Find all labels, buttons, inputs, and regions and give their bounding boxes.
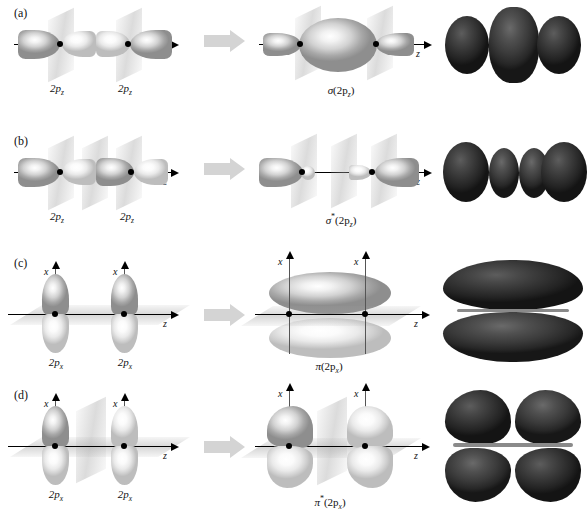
lobe-c-right-up xyxy=(111,274,138,315)
mo-label-b: σ*(2pz) xyxy=(301,212,381,229)
mo-nodal-plane-c xyxy=(241,306,421,326)
nucleus-a-right xyxy=(125,41,131,47)
mo-nucleus-b-right xyxy=(369,169,375,175)
molecular-orbital-b: z σ*(2pz) xyxy=(255,128,445,257)
photo-lobe-b-4 xyxy=(541,142,587,202)
atomic-orbitals-b: z 2pz 2pz xyxy=(0,128,198,257)
figure-row-a: (a) z 2pz 2pz z σ(2pz) xyxy=(0,0,587,129)
transform-arrow-b xyxy=(204,158,248,180)
z-axis-label-d: z xyxy=(163,450,167,461)
orbital-photo-d xyxy=(443,382,587,516)
lobe-b-left-inner xyxy=(62,159,96,185)
photo-lobe-a-3 xyxy=(537,16,581,74)
nucleus-d-right xyxy=(121,443,127,449)
mo-nucleus-d-left xyxy=(286,443,292,449)
nucleus-b-left xyxy=(57,169,63,175)
x-axis-mo-c-right xyxy=(365,258,366,314)
mo-nucleus-a-right xyxy=(373,41,379,47)
z-axis-mo-c xyxy=(255,314,423,315)
photo-lobe-a-1 xyxy=(445,16,489,74)
z-axis-label-mo-c: z xyxy=(414,318,418,329)
atomic-orbitals-d: z x x 2px 2px xyxy=(0,382,198,516)
x-axis-label-c-right: x xyxy=(113,266,117,277)
x-axis-label-mo-d-left: x xyxy=(278,388,282,399)
orbital-photo-a xyxy=(443,0,587,129)
figure-row-b: (b) z 2pz 2pz z σ*(2pz) xyxy=(0,128,587,257)
mo-lobe-d-bottom-right xyxy=(347,446,393,488)
orbital-label-b-right: 2pz xyxy=(104,210,150,225)
transform-arrow-a xyxy=(204,30,248,52)
orbital-photo-b xyxy=(443,128,587,257)
molecular-orbital-d: z x x π*(2px) xyxy=(255,382,445,516)
photo-lobe-b-1 xyxy=(443,142,489,202)
mo-nucleus-b-left xyxy=(299,169,305,175)
mo-label-c: π(2px) xyxy=(293,360,365,375)
mo-lobe-d-top-left xyxy=(267,406,313,448)
nucleus-c-right xyxy=(121,311,127,317)
orbital-photo-c xyxy=(443,250,587,382)
lobe-d-left-up xyxy=(42,406,69,447)
x-axis-label-c-left: x xyxy=(44,266,48,277)
x-axis-mo-c-left xyxy=(289,258,290,314)
orbital-label-d-left: 2px xyxy=(32,488,80,503)
x-axis-mo-c-right-lower xyxy=(365,314,366,354)
lobe-d-left-down xyxy=(42,446,69,485)
mo-lobe-d-bottom-left xyxy=(267,446,313,488)
photo-lobe-d-3 xyxy=(445,448,511,502)
x-axis-mo-c-left-lower xyxy=(289,314,290,354)
mo-nucleus-c-left xyxy=(286,311,292,317)
transform-arrow-d xyxy=(204,436,248,458)
orbital-label-c-left: 2px xyxy=(32,356,80,371)
nucleus-d-left xyxy=(52,443,58,449)
transform-arrow-c xyxy=(204,304,248,326)
nucleus-c-left xyxy=(52,311,58,317)
photo-lobe-d-4 xyxy=(515,448,581,502)
lobe-d-right-down xyxy=(111,446,138,485)
photo-lobe-d-2 xyxy=(515,390,581,444)
orbital-label-c-right: 2px xyxy=(101,356,149,371)
nucleus-b-right xyxy=(128,169,134,175)
figure-row-d: (d) z x x 2px 2px z x x xyxy=(0,382,587,516)
figure-row-c: (c) z x x 2px 2px z x x π(2px) xyxy=(0,250,587,382)
z-axis-label-c: z xyxy=(163,318,167,329)
photo-lobe-d-1 xyxy=(445,390,511,444)
lobe-d-right-up xyxy=(111,406,138,447)
lobe-c-left-down xyxy=(42,314,69,353)
molecular-orbital-c: z x x π(2px) xyxy=(255,250,445,382)
photo-lobe-c-top xyxy=(443,260,583,310)
photo-lobe-b-2 xyxy=(489,148,519,198)
atomic-orbitals-c: z x x 2px 2px xyxy=(0,250,198,382)
lobe-b-right-outer xyxy=(134,159,168,185)
mo-lobe-b-3 xyxy=(349,165,371,180)
photo-lobe-c-bottom xyxy=(443,312,583,362)
x-axis-label-d-right: x xyxy=(113,398,117,409)
atomic-orbitals-a: z 2pz 2pz xyxy=(0,0,198,129)
mo-nucleus-c-right xyxy=(362,311,368,317)
z-axis-label-mo-a: z xyxy=(416,48,420,59)
z-axis-c xyxy=(8,314,172,315)
mo-nucleus-a-left xyxy=(297,41,303,47)
x-axis-label-d-left: x xyxy=(44,398,48,409)
x-axis-label-mo-c-left: x xyxy=(278,256,282,267)
orbital-label-b-left: 2pz xyxy=(34,210,80,225)
mo-lobe-a-center xyxy=(299,18,377,72)
molecular-orbital-a: z σ(2pz) xyxy=(255,0,445,129)
z-axis-label-mo-d: z xyxy=(414,450,418,461)
orbital-label-d-right: 2px xyxy=(101,488,149,503)
nucleus-a-left xyxy=(57,41,63,47)
lobe-c-right-down xyxy=(111,314,138,353)
mo-label-d: π*(2px) xyxy=(289,494,371,511)
x-axis-label-mo-c-right: x xyxy=(354,256,358,267)
z-axis-d xyxy=(8,446,172,447)
mo-lobe-d-top-right xyxy=(347,406,393,448)
photo-lobe-a-2 xyxy=(489,7,539,83)
mo-label-a: σ(2pz) xyxy=(305,84,377,99)
x-axis-label-mo-d-right: x xyxy=(354,388,358,399)
mo-nucleus-d-right xyxy=(362,443,368,449)
lobe-a-left-inner xyxy=(62,31,96,57)
orbital-label-a-right: 2pz xyxy=(102,82,148,97)
orbital-label-a-left: 2pz xyxy=(34,82,80,97)
lobe-c-left-up xyxy=(42,274,69,315)
